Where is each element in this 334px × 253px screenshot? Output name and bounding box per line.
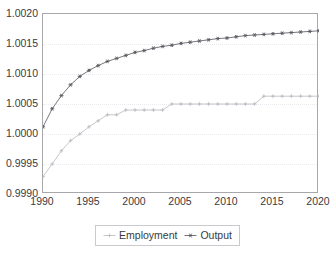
plus-marker-icon bbox=[234, 102, 238, 106]
plus-marker-icon bbox=[108, 234, 112, 238]
x-axis-tick-label: 2000 bbox=[122, 196, 145, 207]
asterisk-marker-icon bbox=[115, 57, 119, 61]
asterisk-marker-icon bbox=[225, 36, 229, 40]
asterisk-marker-icon bbox=[207, 38, 211, 42]
plus-marker-icon bbox=[124, 108, 128, 112]
asterisk-marker-icon bbox=[308, 30, 312, 34]
series-output bbox=[43, 29, 319, 129]
series-employment bbox=[43, 94, 319, 178]
legend-label: Output bbox=[200, 230, 232, 241]
asterisk-marker-icon bbox=[161, 45, 165, 49]
asterisk-marker-icon bbox=[216, 37, 220, 41]
y-axis-tick-label: 0.9995 bbox=[0, 158, 38, 168]
series-layer bbox=[43, 14, 319, 194]
asterisk-marker-icon bbox=[234, 35, 238, 39]
y-axis-tick-label: 1.0020 bbox=[0, 8, 38, 18]
asterisk-marker-icon bbox=[271, 32, 275, 36]
plus-marker-icon bbox=[152, 108, 156, 112]
chart-title bbox=[42, 0, 318, 7]
y-axis-tick-label: 1.0000 bbox=[0, 128, 38, 138]
y-axis-tick-label: 1.0005 bbox=[0, 98, 38, 108]
plus-marker-icon bbox=[299, 94, 303, 98]
plus-marker-icon bbox=[280, 94, 284, 98]
chart-container: 0.99900.99951.00001.00051.00101.00151.00… bbox=[0, 0, 334, 253]
plus-marker-icon bbox=[133, 108, 137, 112]
asterisk-marker-icon bbox=[262, 33, 266, 37]
plus-marker-icon bbox=[179, 102, 183, 106]
asterisk-marker-icon bbox=[188, 40, 192, 44]
plus-marker-icon bbox=[271, 94, 275, 98]
asterisk-marker-icon bbox=[179, 42, 183, 46]
plus-marker-icon bbox=[244, 102, 248, 106]
plus-marker-icon bbox=[115, 113, 119, 117]
y-axis-tick-label: 1.0015 bbox=[0, 38, 38, 48]
x-axis-tick-label: 1990 bbox=[30, 196, 53, 207]
asterisk-marker-icon bbox=[142, 49, 146, 53]
x-axis-tick-label: 2005 bbox=[168, 196, 191, 207]
plot-area bbox=[42, 13, 318, 193]
asterisk-marker-icon bbox=[184, 230, 197, 241]
series-line bbox=[43, 31, 319, 127]
asterisk-marker-icon bbox=[105, 60, 109, 64]
plus-marker-icon bbox=[317, 94, 319, 98]
plus-marker-icon bbox=[142, 108, 146, 112]
x-axis-tick-label: 2020 bbox=[306, 196, 329, 207]
y-axis-tick-label: 1.0010 bbox=[0, 68, 38, 78]
asterisk-marker-icon bbox=[243, 34, 247, 38]
asterisk-marker-icon bbox=[189, 234, 193, 238]
x-axis-tick-label: 2010 bbox=[214, 196, 237, 207]
x-axis-tick-label: 2015 bbox=[260, 196, 283, 207]
chart-legend: EmploymentOutput bbox=[95, 225, 240, 246]
plus-marker-icon bbox=[290, 94, 294, 98]
plus-marker-icon bbox=[225, 102, 229, 106]
plus-marker-icon bbox=[216, 102, 220, 106]
asterisk-marker-icon bbox=[253, 33, 257, 37]
legend-item-employment[interactable]: Employment bbox=[103, 230, 177, 241]
asterisk-marker-icon bbox=[289, 31, 293, 35]
plus-marker-icon bbox=[308, 94, 312, 98]
asterisk-marker-icon bbox=[43, 125, 45, 129]
plus-marker-icon bbox=[198, 102, 202, 106]
plus-marker-icon bbox=[207, 102, 211, 106]
asterisk-marker-icon bbox=[50, 107, 54, 111]
legend-label: Employment bbox=[119, 230, 177, 241]
x-axis-tick-label: 1995 bbox=[76, 196, 99, 207]
plus-marker-icon bbox=[103, 230, 116, 241]
asterisk-marker-icon bbox=[197, 39, 201, 43]
asterisk-marker-icon bbox=[317, 29, 319, 33]
asterisk-marker-icon bbox=[96, 64, 100, 68]
asterisk-marker-icon bbox=[133, 51, 137, 55]
asterisk-marker-icon bbox=[299, 30, 303, 34]
asterisk-marker-icon bbox=[151, 46, 155, 50]
asterisk-marker-icon bbox=[170, 43, 174, 47]
series-line bbox=[43, 96, 319, 176]
plus-marker-icon bbox=[188, 102, 192, 106]
asterisk-marker-icon bbox=[124, 54, 128, 58]
legend-item-output[interactable]: Output bbox=[184, 230, 232, 241]
asterisk-marker-icon bbox=[280, 31, 284, 35]
